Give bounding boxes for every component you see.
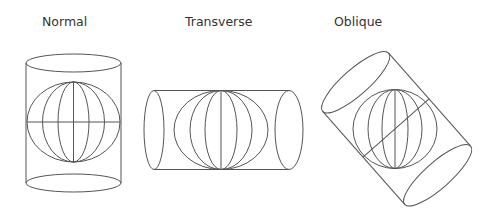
oblique-cylinder-bottom — [396, 136, 479, 211]
transverse-cylinder-left — [144, 91, 164, 170]
oblique-cylinder-top — [314, 43, 397, 121]
transverse-projection-figure — [144, 91, 303, 170]
normal-globe — [27, 82, 120, 162]
oblique-projection-figure — [314, 43, 479, 211]
projection-diagram — [0, 0, 496, 211]
transverse-globe — [174, 91, 268, 170]
normal-cylinder-bottom-front — [26, 183, 121, 192]
transverse-cylinder-right — [275, 91, 303, 170]
normal-projection-figure — [26, 54, 121, 192]
oblique-globe — [353, 90, 437, 169]
normal-cylinder-bottom-back — [26, 174, 121, 183]
normal-cylinder-top — [26, 54, 121, 72]
